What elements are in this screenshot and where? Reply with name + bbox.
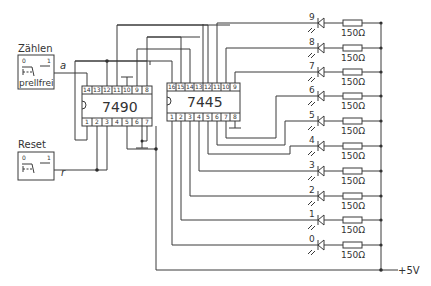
svg-text:5: 5	[309, 110, 315, 120]
svg-text:8: 8	[145, 86, 149, 93]
svg-text:15: 15	[177, 83, 185, 90]
svg-text:0: 0	[309, 234, 315, 244]
svg-text:4: 4	[197, 113, 201, 120]
svg-text:10: 10	[123, 86, 131, 93]
svg-text:1: 1	[309, 209, 315, 219]
svg-text:2: 2	[179, 113, 183, 120]
svg-text:7: 7	[145, 118, 149, 125]
svg-text:11: 11	[113, 86, 121, 93]
svg-text:11: 11	[213, 83, 221, 90]
svg-text:0: 0	[22, 154, 26, 161]
svg-text:150Ω: 150Ω	[341, 250, 365, 260]
ic-7490-label: 7490	[102, 99, 138, 115]
svg-text:150Ω: 150Ω	[341, 53, 365, 63]
svg-text:5: 5	[206, 113, 210, 120]
svg-text:13: 13	[93, 86, 101, 93]
svg-text:9: 9	[233, 83, 237, 90]
svg-text:6: 6	[309, 85, 315, 95]
svg-text:1: 1	[47, 57, 51, 64]
svg-text:1: 1	[47, 154, 51, 161]
signal-a-label: a	[60, 60, 66, 71]
svg-text:3: 3	[188, 113, 192, 120]
switch-count-label: Zählen	[18, 43, 53, 54]
svg-text:14: 14	[83, 86, 91, 93]
svg-text:6: 6	[135, 118, 139, 125]
svg-text:2: 2	[95, 118, 99, 125]
ic-7445-label: 7445	[187, 94, 223, 110]
svg-text:150Ω: 150Ω	[341, 77, 365, 87]
circuit-schematic: Zählen 0 1 prellfrei a Reset 0 1 r 7490	[0, 0, 431, 286]
svg-text:150Ω: 150Ω	[341, 225, 365, 235]
switch-reset-label: Reset	[18, 139, 46, 150]
svg-text:6: 6	[215, 113, 219, 120]
svg-text:9: 9	[309, 12, 315, 22]
ic-7490: 7490 14 13 12 11 10 9 8 1 2 3 4 5 6 7	[82, 86, 152, 126]
svg-text:1: 1	[170, 113, 174, 120]
svg-text:2: 2	[309, 185, 315, 195]
svg-text:12: 12	[204, 83, 212, 90]
svg-text:8: 8	[309, 37, 315, 47]
svg-text:150Ω: 150Ω	[341, 101, 365, 111]
svg-text:14: 14	[186, 83, 194, 90]
svg-text:4: 4	[309, 135, 315, 145]
svg-text:7: 7	[224, 113, 228, 120]
svg-text:0: 0	[22, 57, 26, 64]
svg-text:150Ω: 150Ω	[341, 151, 365, 161]
svg-text:7: 7	[309, 61, 315, 71]
svg-text:3: 3	[309, 160, 315, 170]
svg-text:150Ω: 150Ω	[341, 28, 365, 38]
svg-text:1: 1	[85, 118, 89, 125]
svg-text:13: 13	[195, 83, 203, 90]
signal-r-label: r	[61, 167, 66, 178]
svg-text:9: 9	[135, 86, 139, 93]
debounced-note: prellfrei	[19, 78, 53, 88]
svg-text:150Ω: 150Ω	[341, 126, 365, 136]
wires-7445-outputs	[172, 23, 318, 245]
supply-label: +5V	[398, 265, 420, 276]
svg-text:3: 3	[105, 118, 109, 125]
svg-text:5: 5	[125, 118, 129, 125]
svg-text:8: 8	[233, 113, 237, 120]
svg-text:12: 12	[103, 86, 111, 93]
svg-text:150Ω: 150Ω	[341, 201, 365, 211]
svg-text:16: 16	[168, 83, 176, 90]
svg-text:10: 10	[222, 83, 230, 90]
ic-7445: 7445 16 15 14 13 12 11 10 9 1 2 3 4 5 6 …	[167, 83, 240, 121]
svg-text:4: 4	[115, 118, 119, 125]
svg-text:150Ω: 150Ω	[341, 176, 365, 186]
